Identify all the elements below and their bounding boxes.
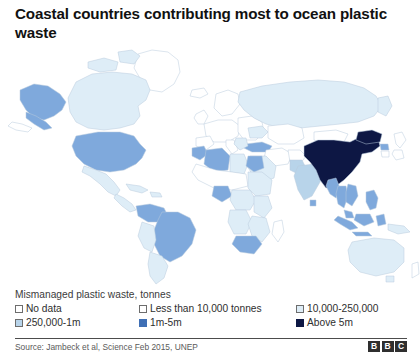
infographic-map-page: Coastal countries contributing most to o… (0, 0, 420, 356)
bbc-logo-letter-1: B (368, 341, 380, 352)
bbc-logo: B B C (368, 341, 407, 352)
legend-items: No data Less than 10,000 tonnes 10,000-2… (15, 303, 407, 332)
legend-label-less-than-10000: Less than 10,000 tonnes (150, 303, 262, 315)
country-south-korea (381, 151, 389, 157)
legend: Mismanaged plastic waste, tonnes No data… (15, 288, 407, 332)
legend-item-1m-5m[interactable]: 1m-5m (139, 317, 182, 329)
footer-divider (15, 338, 407, 339)
legend-swatch-no-data (15, 305, 23, 313)
legend-label-above-5m: Above 5m (307, 317, 353, 329)
page-title: Coastal countries contributing most to o… (15, 4, 407, 42)
legend-item-250000-1m[interactable]: 250,000-1m (15, 317, 80, 329)
legend-heading: Mismanaged plastic waste, tonnes (15, 288, 407, 301)
legend-swatch-above-5m (296, 319, 304, 327)
legend-item-10000-250000[interactable]: 10,000-250,000 (296, 303, 378, 315)
world-map-svg: .cn { stroke: #b9cbdd; stroke-width: 0.5… (0, 46, 420, 286)
legend-swatch-1m-5m (139, 319, 147, 327)
bbc-logo-letter-3: C (395, 341, 407, 352)
world-map[interactable]: .cn { stroke: #b9cbdd; stroke-width: 0.5… (0, 46, 420, 286)
legend-label-250000-1m: 250,000-1m (26, 317, 80, 329)
country-north-korea (380, 144, 389, 150)
country-russia (238, 80, 382, 128)
legend-item-above-5m[interactable]: Above 5m (296, 317, 353, 329)
legend-swatch-250000-1m (15, 319, 23, 327)
source-credit: Source: Jambeck et al, Science Feb 2015,… (15, 342, 198, 353)
legend-label-1m-5m: 1m-5m (150, 317, 182, 329)
bbc-logo-letter-2: B (382, 341, 394, 352)
legend-swatch-less-than-10000 (139, 305, 147, 313)
country-kazakhstan (268, 124, 304, 144)
legend-item-no-data[interactable]: No data (15, 303, 62, 315)
country-tasmania (386, 276, 394, 282)
country-libya (230, 154, 248, 174)
legend-swatch-10000-250000 (296, 305, 304, 313)
legend-label-10000-250000: 10,000-250,000 (307, 303, 378, 315)
legend-item-less-than-10000[interactable]: Less than 10,000 tonnes (139, 303, 262, 315)
country-sri-lanka (310, 200, 316, 206)
country-indonesia-sulawesi (376, 214, 386, 226)
legend-label-no-data: No data (26, 303, 62, 315)
